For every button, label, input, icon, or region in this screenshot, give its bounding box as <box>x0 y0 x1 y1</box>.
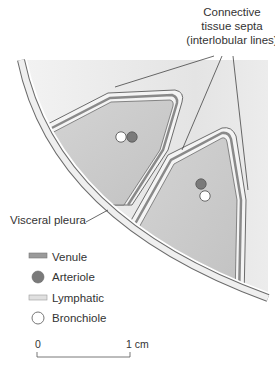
scale-bar: 0 1 cm <box>35 338 149 357</box>
legend: Venule Arteriole Lymphatic Bronchiole <box>29 251 106 324</box>
arteriole-1 <box>127 132 137 142</box>
lymphatic-icon <box>29 295 47 300</box>
pleura-leader-line <box>86 210 108 222</box>
arteriole-2 <box>196 179 206 189</box>
bronchiole-icon <box>32 312 44 324</box>
svg-text:1 cm: 1 cm <box>126 338 149 350</box>
legend-item-lymphatic: Lymphatic <box>29 292 104 304</box>
bronchiole-2 <box>200 191 210 201</box>
lung-lobule-diagram: Connective tissue septa (interlobular li… <box>0 0 275 374</box>
svg-text:(interlobular lines): (interlobular lines) <box>186 34 275 46</box>
legend-item-arteriole: Arteriole <box>32 271 95 283</box>
legend-item-venule: Venule <box>29 251 87 263</box>
venule-icon <box>29 253 47 258</box>
svg-text:Arteriole: Arteriole <box>52 271 95 283</box>
visceral-pleura-label: Visceral pleura <box>10 214 86 226</box>
septa-label: Connective tissue septa (interlobular li… <box>186 6 275 46</box>
svg-text:tissue septa: tissue septa <box>201 20 263 32</box>
svg-text:Venule: Venule <box>52 251 87 263</box>
legend-item-bronchiole: Bronchiole <box>32 312 106 324</box>
arteriole-icon <box>32 271 44 283</box>
svg-text:Bronchiole: Bronchiole <box>52 312 106 324</box>
bronchiole-1 <box>116 132 126 142</box>
svg-text:0: 0 <box>35 338 41 350</box>
svg-text:Lymphatic: Lymphatic <box>52 292 104 304</box>
svg-text:Connective: Connective <box>203 6 261 18</box>
